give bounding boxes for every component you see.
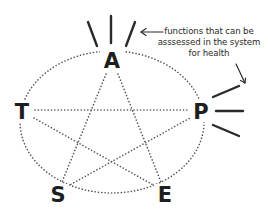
node-e-label: E [158,183,172,207]
annotation-text: functions that can be asssessed in the s… [150,26,268,59]
function-line-p-bottom [213,125,239,136]
function-lines-p [213,86,243,136]
edge-a-s [62,74,106,182]
node-p-label: P [193,100,208,124]
function-line-a-right [126,22,135,46]
annotation-line-1: functions that can be [150,26,268,37]
arrow-down-icon [236,64,246,83]
annotation-line-3: for health [150,48,268,59]
node-t-label: T [15,100,30,124]
function-lines-a [88,16,135,46]
star-edges [34,74,190,186]
function-line-p-top [213,86,239,97]
function-line-a-left [88,22,97,46]
annotation-line-2: asssessed in the system [150,37,268,48]
node-s-label: S [50,183,65,207]
edge-a-e [118,74,161,182]
node-a-label: A [104,49,121,73]
